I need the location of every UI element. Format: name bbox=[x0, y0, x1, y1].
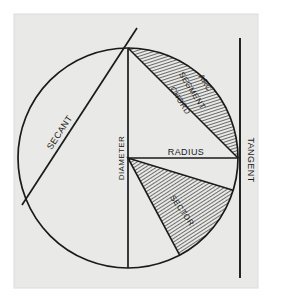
label-radius: RADIUS bbox=[168, 147, 204, 157]
label-tangent: TANGENT bbox=[246, 137, 256, 182]
label-diameter: DIAMETER bbox=[117, 136, 126, 181]
diameter-label-group: DIAMETER bbox=[117, 136, 126, 181]
radius-label-group: RADIUS bbox=[168, 147, 204, 157]
circle-geometry-diagram: SECANT ARC SEGMENT CHORD DIAMETER RADIUS… bbox=[0, 0, 281, 306]
tangent-label-group: TANGENT bbox=[246, 137, 256, 182]
diagram-canvas: SECANT ARC SEGMENT CHORD DIAMETER RADIUS… bbox=[0, 0, 281, 306]
